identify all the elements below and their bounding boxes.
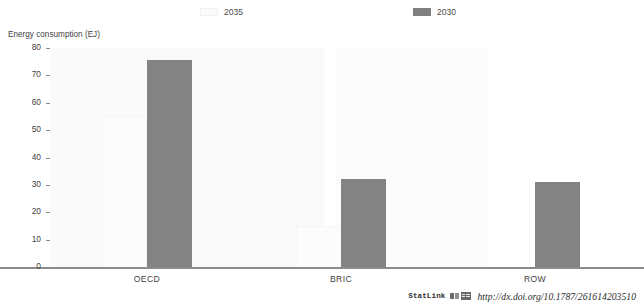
y-axis-tick: 0 — [0, 267, 50, 268]
y-axis-tick-label: 20 — [32, 206, 41, 217]
y-axis-tick-label: 60 — [32, 97, 41, 108]
bar-oecd-2035 — [102, 116, 147, 267]
statlink-label: StatLink — [408, 292, 445, 300]
x-axis-label-bric: BRIC — [301, 274, 381, 284]
y-axis-tick: 60 — [0, 103, 50, 104]
y-axis-tick-label: 40 — [32, 152, 41, 163]
bar-oecd-2030 — [147, 60, 192, 267]
bar-bric-2035 — [296, 226, 341, 267]
x-axis-label-oecd: OECD — [107, 274, 187, 284]
y-axis-tick: 70 — [0, 75, 50, 76]
y-axis-tick-label: 50 — [32, 124, 41, 135]
legend-label-2035: 2035 — [224, 8, 243, 17]
spreadsheet-icon — [450, 292, 472, 300]
plot-area — [50, 48, 632, 267]
x-axis-label-row: ROW — [495, 274, 575, 284]
y-axis-tick: 50 — [0, 130, 50, 131]
legend-item-2030[interactable]: 2030 — [413, 8, 456, 17]
y-axis-tick: 20 — [0, 212, 50, 213]
legend-swatch-2030-icon — [413, 8, 431, 16]
y-axis-tick-label: 70 — [32, 69, 41, 80]
legend-item-2035[interactable]: 2035 — [200, 8, 243, 17]
y-axis-tick-label: 30 — [32, 179, 41, 190]
legend-label-2030: 2030 — [437, 8, 456, 17]
y-axis-tick-label: 0 — [36, 261, 41, 272]
statlink-url[interactable]: http://dx.doi.org/10.1787/261614203510 — [477, 291, 636, 302]
x-axis-line — [0, 267, 644, 269]
y-axis-tick: 40 — [0, 158, 50, 159]
y-axis-tick: 10 — [0, 240, 50, 241]
y-axis-tick: 30 — [0, 185, 50, 186]
y-axis-tick-label: 10 — [32, 234, 41, 245]
y-axis-tick-mark — [46, 267, 50, 268]
chart-legend: 2035 2030 — [0, 8, 644, 24]
statlink-row: StatLink http://dx.doi.org/10.1787/26161… — [0, 289, 644, 303]
y-axis-title: Energy consumption (EJ) — [8, 30, 100, 39]
bar-row-2030 — [535, 182, 580, 267]
legend-swatch-2035-icon — [200, 8, 218, 16]
y-axis-tick-label: 80 — [32, 42, 41, 53]
y-axis-tick: 80 — [0, 48, 50, 49]
bar-bric-2030 — [341, 179, 386, 267]
